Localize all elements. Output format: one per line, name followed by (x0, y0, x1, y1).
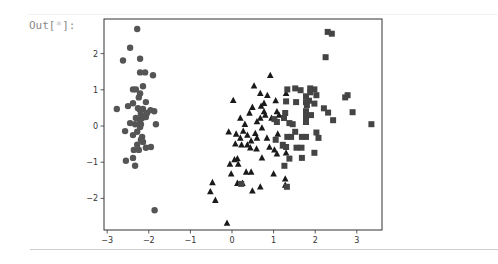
triangle-marker (282, 175, 289, 181)
circle-marker (137, 56, 143, 62)
y-axis-ticks: 210−1−2 (86, 50, 104, 204)
triangle-marker (248, 137, 255, 143)
triangle-marker (228, 170, 235, 176)
triangle-marker (264, 92, 271, 98)
triangle-marker (270, 170, 277, 176)
square-marker (274, 119, 280, 125)
circle-marker (120, 57, 126, 63)
square-marker (286, 156, 292, 162)
triangle-marker (259, 124, 266, 130)
triangle-marker (257, 183, 264, 189)
circle-marker (114, 106, 120, 112)
square-marker (325, 110, 331, 116)
y-tick-label: −1 (86, 158, 98, 167)
square-marker (284, 184, 290, 190)
square-marker (303, 119, 309, 125)
triangle-marker (252, 130, 259, 136)
square-marker (313, 92, 319, 98)
triangle-marker (266, 143, 273, 149)
x-axis-ticks: −3−2−10123 (101, 230, 359, 245)
square-marker (293, 99, 299, 105)
square-marker (329, 31, 335, 37)
triangle-marker (230, 97, 237, 103)
triangle-marker (267, 72, 274, 78)
triangle-marker (246, 109, 253, 115)
square-marker (323, 54, 329, 60)
square-marker (283, 144, 289, 150)
triangle-marker (249, 187, 256, 193)
square-marker (298, 87, 304, 93)
circle-marker (134, 26, 140, 32)
triangle-marker (232, 140, 239, 146)
square-marker (350, 109, 356, 115)
triangle-marker (272, 97, 279, 103)
square-marker (273, 137, 279, 143)
circle-marker (132, 163, 138, 169)
y-tick-label: 0 (93, 122, 98, 131)
circle-marker (131, 147, 137, 153)
triangle-marker (248, 168, 255, 174)
square-marker (303, 134, 309, 140)
square-marker (316, 135, 322, 141)
triangle-marker (238, 141, 245, 147)
square-marker (311, 150, 317, 156)
x-tick-label: −3 (101, 236, 113, 245)
circle-marker (143, 114, 149, 120)
triangle-marker (253, 145, 260, 151)
circle-marker (130, 100, 136, 106)
square-marker (283, 98, 289, 104)
triangle-marker (233, 130, 240, 136)
triangle-marker (264, 134, 271, 140)
circle-marker (127, 45, 133, 51)
square-marker (284, 86, 290, 92)
circle-marker (151, 207, 157, 213)
triangle-marker (242, 121, 249, 127)
triangle-marker (249, 104, 256, 110)
square-marker (292, 85, 298, 91)
square-marker (342, 94, 348, 100)
triangle-marker (224, 219, 231, 225)
x-tick-label: −2 (143, 236, 155, 245)
cell-bottom-rule (30, 249, 498, 250)
square-marker (288, 134, 294, 140)
square-marker (290, 121, 296, 127)
y-tick-label: −2 (86, 194, 98, 203)
y-tick-label: 2 (93, 50, 98, 59)
triangle-marker (225, 128, 232, 134)
triangle-marker (207, 188, 214, 194)
square-marker (281, 163, 287, 169)
circle-marker (143, 99, 149, 105)
square-marker (281, 115, 287, 121)
square-marker (311, 101, 317, 107)
x-tick-label: 1 (271, 236, 276, 245)
y-tick-label: 1 (93, 86, 98, 95)
x-tick-label: 2 (313, 236, 318, 245)
x-tick-label: 0 (229, 236, 234, 245)
x-tick-label: 3 (354, 236, 359, 245)
scatter-chart: −3−2−10123 210−1−2 (0, 0, 498, 264)
square-marker (238, 181, 244, 187)
triangle-marker (237, 114, 244, 120)
triangle-marker (209, 179, 216, 185)
circle-marker (130, 132, 136, 138)
circle-marker (140, 83, 146, 89)
circle-marker (123, 158, 129, 164)
triangle-marker (283, 149, 290, 155)
x-tick-label: −1 (185, 236, 197, 245)
circle-marker (148, 144, 154, 150)
triangle-marker (251, 82, 258, 88)
triangle-marker (240, 127, 247, 133)
circle-marker (142, 69, 148, 75)
triangle-marker (259, 154, 266, 160)
triangle-marker (274, 130, 281, 136)
square-marker (330, 117, 336, 123)
triangle-marker (212, 197, 219, 203)
circle-marker (140, 139, 146, 145)
triangle-marker (257, 90, 264, 96)
triangle-marker (261, 108, 268, 114)
circle-marker (150, 72, 156, 78)
square-marker (304, 102, 310, 108)
square-marker (368, 121, 374, 127)
circle-marker (130, 155, 136, 161)
circle-marker (122, 128, 128, 134)
